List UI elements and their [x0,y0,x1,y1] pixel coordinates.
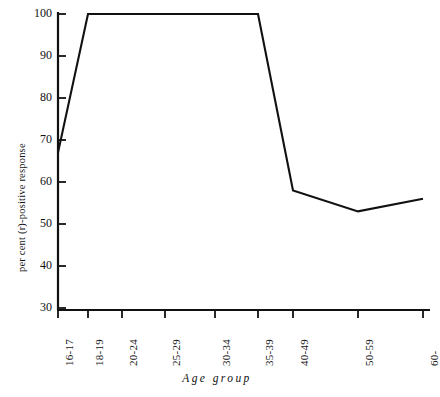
y-axis-ticks [58,14,66,308]
x-tick-label: 60- [428,350,440,366]
x-axis-ticks [58,310,423,318]
x-tick-label: 35-39 [263,339,275,366]
x-axis-title: Age group [0,372,434,384]
axes [57,12,430,310]
y-axis-title: per cent (r)-positive response [16,143,27,272]
x-tick-label: 18-19 [93,339,105,366]
y-tick-label: 100 [18,6,52,21]
x-tick-label: 40-49 [298,339,310,366]
x-tick-label: 20-24 [127,339,139,366]
x-tick-label: 16-17 [63,339,75,366]
y-tick-label: 90 [18,48,52,63]
y-tick-label: 30 [18,300,52,315]
x-tick-label: 25-29 [170,339,182,366]
x-tick-label: 30-34 [220,339,232,366]
data-series-line [58,14,423,211]
x-tick-label: 50-59 [363,339,375,366]
y-tick-label: 80 [18,90,52,105]
